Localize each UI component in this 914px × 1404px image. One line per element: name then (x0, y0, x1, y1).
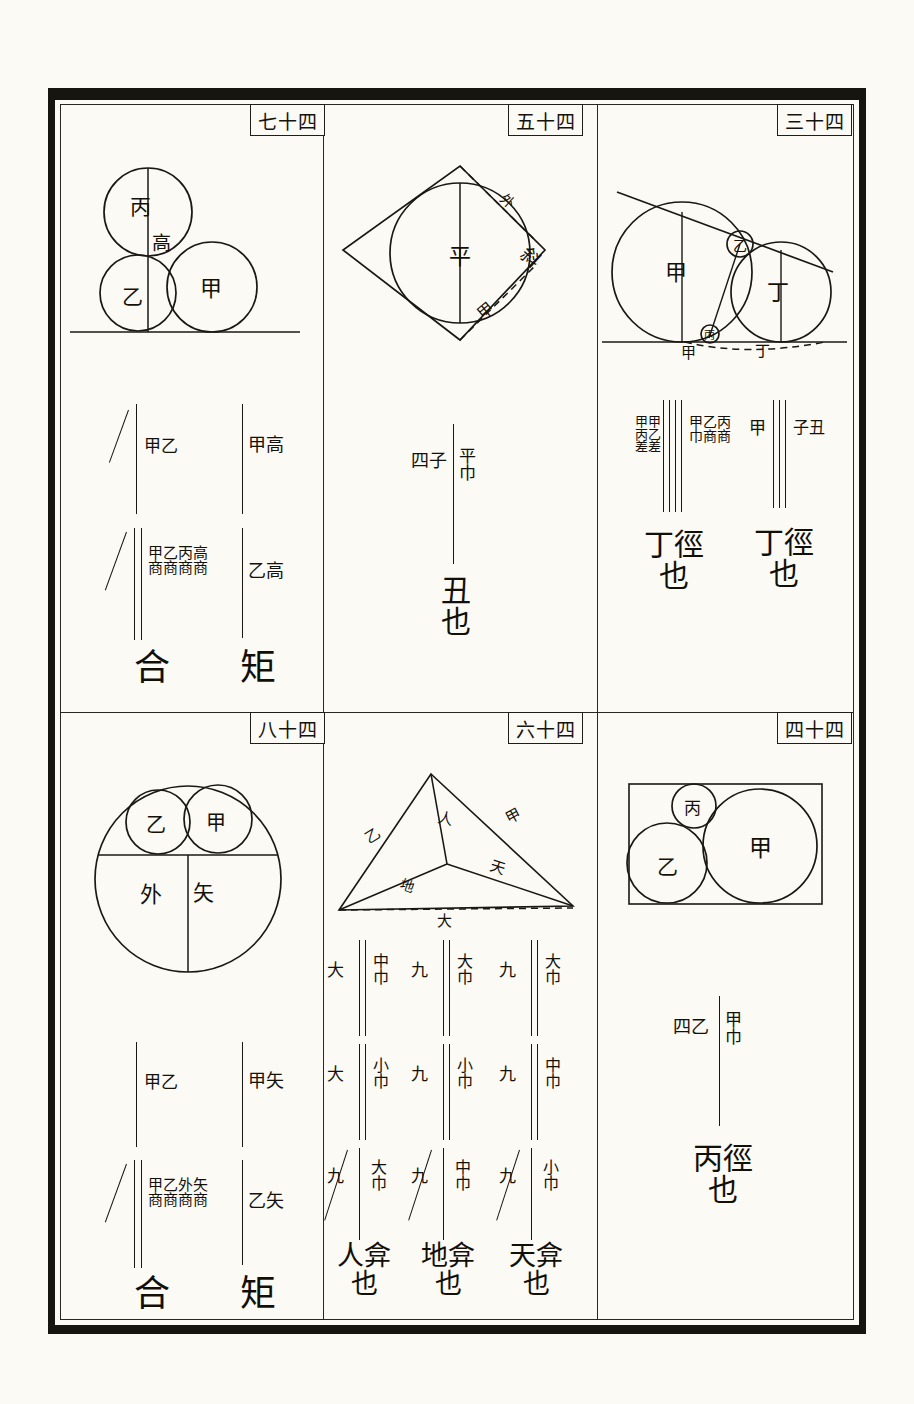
panel-64-figure: 乙 人 甲 天 地 大 (323, 758, 597, 928)
segment-label-gao: 高 (152, 232, 171, 254)
baseline-label-jia: 甲 (681, 344, 696, 362)
circle-label-yi: 乙 (122, 285, 143, 309)
panel-34-formula-left: 甲甲 丙乙 差差 甲乙丙 巾商商 丁徑也 (605, 400, 750, 690)
term-jia-shi: 甲矢 (248, 1072, 284, 1090)
cell-left-3: 九 (411, 962, 428, 979)
manuscript-page: 七十四 丙 高 乙 甲 甲高 乙高 矩 甲乙 (0, 0, 914, 1404)
cell-left-0: 九 (499, 962, 516, 979)
panel-84-formula-left: 甲乙 甲乙外矢 商商商商 合 (118, 1042, 238, 1312)
panel-74-number-box: 七十四 (250, 104, 325, 136)
panel-34-formula-right: 甲 子丑 丁徑也 (747, 400, 852, 690)
panel-44-number-box: 四十四 (777, 712, 852, 744)
panel-84-number: 八十四 (258, 715, 318, 742)
panel-64-number-box: 六十四 (508, 712, 583, 744)
cell-rb-2: 巾 (543, 1176, 559, 1192)
panel-34-figure: 甲 丁 乙 丙 甲 丁 (597, 152, 854, 352)
edge-label-di: 地 (398, 876, 417, 896)
term-yi-shi: 乙矢 (248, 1192, 284, 1210)
panel-84-figure: 乙 甲 外 矢 (60, 766, 323, 976)
panel-64-formula-col-tian: 九 大 巾 九 中 巾 九 小 巾 天弇也 (493, 940, 585, 1300)
region-label-wai: 外 (140, 882, 162, 907)
panel-84-formula-right: 甲矢 乙矢 矩 (228, 1042, 323, 1312)
cell-left-8: 九 (327, 1168, 344, 1185)
cell-left-6: 大 (327, 962, 344, 979)
panel-84-number-box: 八十四 (250, 712, 325, 744)
panel-74-formula-right: 甲高 乙高 矩 (228, 404, 323, 684)
tangent-label-bing: 丙 (704, 329, 715, 342)
result-di-yan-ye: 地弇也 (419, 1242, 477, 1297)
cell-rb-7: 巾 (373, 1074, 389, 1090)
term-zi-chou: 子丑 (793, 420, 825, 436)
circle-label-ding: 丁 (767, 280, 789, 305)
panel-54: 五十四 平 外 斜 甲 四子 平 巾 丑也 (323, 104, 597, 712)
edge-label-da: 大 (437, 912, 452, 930)
tangent-label-yi: 乙 (733, 238, 747, 254)
edge-label-yi: 乙 (362, 824, 384, 847)
panel-34-number: 三十四 (785, 107, 845, 134)
term-shang-x4-84: 商商商商 (148, 1193, 208, 1208)
term-jin-44: 巾 (725, 1029, 742, 1046)
cell-rb-8: 巾 (371, 1176, 387, 1192)
result-he-84: 合 (120, 1276, 184, 1312)
term-si-yi: 四乙 (673, 1018, 709, 1036)
term-cha-cha: 差差 (635, 441, 661, 454)
edge-label-ren: 人 (436, 808, 454, 829)
term-jia-yi: 甲乙 (144, 438, 178, 455)
cell-left-4: 九 (411, 1066, 428, 1083)
edge-label-jia: 甲 (502, 805, 524, 828)
panel-54-figure: 平 外 斜 甲 (323, 152, 597, 352)
term-jia: 甲 (749, 420, 766, 437)
term-yi-gao: 乙高 (248, 562, 284, 580)
panel-74-formula-left: 甲乙 甲乙丙高 商商商商 合 (118, 404, 238, 684)
circle-label-yi-44: 乙 (657, 855, 678, 879)
panel-54-number: 五十四 (516, 107, 576, 134)
circle-label-bing: 丙 (130, 195, 151, 219)
panel-34: 三十四 甲 丁 乙 丙 甲 丁 甲 子丑 (597, 104, 854, 712)
term-shang-x4: 商商商商 (148, 561, 208, 576)
cell-left-7: 大 (327, 1066, 344, 1083)
circle-label-jia-44: 甲 (749, 835, 772, 861)
panel-74-figure: 丙 高 乙 甲 (60, 164, 323, 354)
result-ren-yan-ye: 人弇也 (335, 1242, 393, 1297)
panel-34-number-box: 三十四 (777, 104, 852, 136)
cell-left-5: 九 (411, 1168, 428, 1185)
term-jia-yi-84: 甲乙 (144, 1074, 178, 1091)
cell-rb-3: 巾 (457, 970, 473, 986)
result-ding-jing-ye-left: 丁徑也 (641, 530, 707, 591)
region-label-shi: 矢 (193, 881, 214, 905)
panel-64-formula-col-ren: 大 中 巾 大 小 巾 九 大 巾 人弇也 (321, 940, 413, 1300)
center-label-ping: 平 (449, 244, 471, 269)
panel-44-figure: 丙 乙 甲 (597, 764, 854, 924)
term-jin: 巾 (459, 465, 476, 482)
result-bing-jing-ye: 丙徑也 (691, 1144, 755, 1205)
circle-label-jia: 甲 (665, 260, 687, 285)
baseline-label-ding: 丁 (755, 342, 770, 360)
result-chou-ye: 丑也 (427, 576, 485, 637)
panel-74: 七十四 丙 高 乙 甲 甲高 乙高 矩 甲乙 (60, 104, 323, 712)
panel-74-number: 七十四 (258, 107, 318, 134)
term-si-zi: 四子 (411, 452, 447, 470)
edge-label-jia: 甲 (473, 298, 497, 323)
panel-44-formula: 四乙 甲 巾 丙徑也 (659, 996, 799, 1256)
circle-label-bing-44: 丙 (684, 798, 701, 818)
panel-44: 四十四 丙 乙 甲 四乙 甲 巾 丙徑也 (597, 712, 854, 1320)
panel-84: 八十四 乙 甲 外 矢 甲矢 乙矢 矩 甲乙 甲乙外 (60, 712, 323, 1320)
cell-left-2: 九 (499, 1168, 516, 1185)
panel-44-number: 四十四 (785, 715, 845, 742)
result-ding-jing-ye-right: 丁徑也 (751, 528, 817, 589)
circle-label-jia: 甲 (200, 276, 222, 301)
cell-rb-6: 巾 (373, 970, 389, 986)
small-circle-label-jia: 甲 (206, 811, 226, 835)
small-circle-label-yi: 乙 (146, 813, 166, 837)
panel-54-formula: 四子 平 巾 丑也 (401, 424, 551, 674)
edge-label-tian: 天 (488, 857, 508, 879)
cell-rb-4: 巾 (457, 1074, 473, 1090)
panel-54-number-box: 五十四 (508, 104, 583, 136)
panel-64: 六十四 乙 人 甲 天 地 大 九 大 巾 九 (323, 712, 597, 1320)
cell-rb-0: 巾 (545, 970, 561, 986)
cell-left-1: 九 (499, 1066, 516, 1083)
result-tian-yan-ye: 天弇也 (507, 1242, 565, 1297)
result-he: 合 (120, 650, 184, 686)
cell-rb-1: 巾 (545, 1074, 561, 1090)
cell-rb-5: 巾 (455, 1176, 471, 1192)
